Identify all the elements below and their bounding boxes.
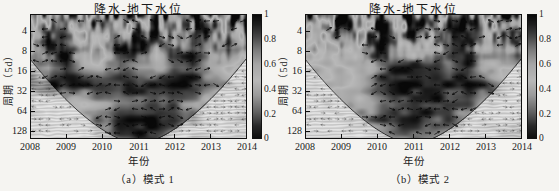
panel-b-x-tick: 2008 (287, 141, 323, 153)
panel-a-x-tick: 2014 (229, 141, 265, 153)
panel-a-x-tick: 2008 (12, 141, 48, 153)
panel-b-y-tick: 128 (275, 125, 302, 137)
colorbar-b (527, 14, 537, 139)
panel-b-y-tick: 8 (275, 45, 302, 57)
panel-a-x-tick: 2012 (157, 141, 193, 153)
wavelet-coherence-heatmap-a (30, 14, 247, 139)
panel-b: 降水-地下水位 周期（5d） 4 8 16 32 64 128 1 0.8 0.… (275, 0, 559, 191)
panel-a-x-tick: 2013 (193, 141, 229, 153)
panel-a-colorbar-tick: 1 (264, 9, 269, 20)
panel-b-colorbar-tick: 0.4 (539, 84, 551, 95)
panel-b-colorbar-tick: 1 (539, 9, 544, 20)
panel-b-x-tick: 2012 (432, 141, 468, 153)
panel-b-y-tick: 32 (275, 85, 302, 97)
panel-b-y-tick: 64 (275, 105, 302, 117)
panel-b-x-tick: 2009 (323, 141, 359, 153)
panel-b-x-tick: 2014 (504, 141, 540, 153)
panel-b-x-tick: 2011 (396, 141, 432, 153)
panel-a-x-tick: 2011 (121, 141, 157, 153)
panel-a-y-tick: 16 (0, 65, 27, 77)
panel-a-y-tick: 8 (0, 45, 27, 57)
panel-a-x-tick: 2009 (48, 141, 84, 153)
panel-b-colorbar-tick: 0.2 (539, 109, 551, 120)
panel-a-caption: （a）模式 1 (30, 171, 260, 186)
panel-b-y-tick: 4 (275, 25, 302, 37)
panel-b-colorbar-tick: 0.6 (539, 59, 551, 70)
panel-b-colorbar-tick: 0.8 (539, 34, 551, 45)
panel-a-y-tick: 4 (0, 25, 27, 37)
wavelet-coherence-heatmap-b (305, 14, 522, 139)
colorbar-a (252, 14, 262, 139)
panel-b-caption: （b）模式 2 (305, 171, 535, 186)
panel-b-x-axis-label: 年份 (305, 153, 522, 168)
panel-a-y-tick: 64 (0, 105, 27, 117)
panel-a: 降水-地下水位 周期（5d） 4 8 16 32 64 128 1 0.8 0.… (0, 0, 284, 191)
panel-a-y-tick: 32 (0, 85, 27, 97)
panel-b-y-tick: 16 (275, 65, 302, 77)
panel-a-x-tick: 2010 (84, 141, 120, 153)
panel-a-y-tick: 128 (0, 125, 27, 137)
panel-b-x-tick: 2010 (359, 141, 395, 153)
panel-a-x-axis-label: 年份 (30, 153, 247, 168)
wavelet-coherence-figure: 降水-地下水位 周期（5d） 4 8 16 32 64 128 1 0.8 0.… (0, 0, 559, 191)
panel-b-x-tick: 2013 (468, 141, 504, 153)
